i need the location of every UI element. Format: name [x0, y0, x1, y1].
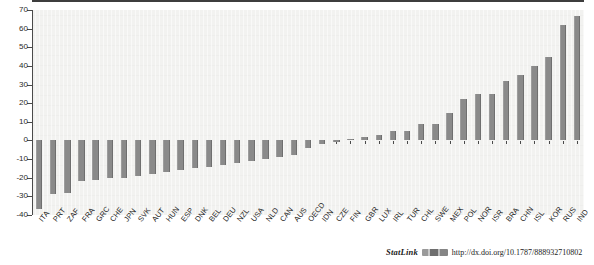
y-tick-label: 30 — [0, 81, 28, 89]
bar — [418, 124, 425, 141]
y-tick-label: -20 — [0, 174, 28, 182]
bar — [404, 131, 411, 140]
statlink-url[interactable]: http://dx.doi.org/10.1787/888932710802 — [452, 248, 582, 257]
bar — [206, 140, 213, 166]
bar — [121, 140, 128, 177]
bar — [163, 140, 170, 172]
bar — [107, 140, 114, 177]
bar — [276, 140, 283, 157]
bar — [234, 140, 241, 162]
bar — [248, 140, 255, 161]
x-axis-labels: ITAPRTZAFFRAGRCCHEJPNSVKAUTHUNESPDNKBELD… — [32, 216, 584, 250]
bar — [319, 140, 326, 144]
bar — [531, 66, 538, 141]
y-tick-label: 10 — [0, 118, 28, 126]
bar — [291, 140, 298, 155]
y-tick-label: 20 — [0, 99, 28, 107]
bar — [347, 139, 354, 141]
bar — [517, 75, 524, 140]
bar — [50, 140, 57, 194]
bar — [460, 99, 467, 140]
bar — [262, 140, 269, 159]
statlink-label: StatLink — [386, 247, 418, 257]
bar — [135, 140, 142, 175]
bar — [545, 57, 552, 141]
bar — [361, 137, 368, 141]
bar — [489, 94, 496, 141]
y-tick-label: -40 — [0, 211, 28, 219]
y-tick-label: -30 — [0, 192, 28, 200]
y-tick-label: 0 — [0, 136, 28, 144]
bar — [574, 16, 581, 141]
bar — [220, 140, 227, 164]
bar — [446, 113, 453, 141]
bar — [36, 140, 43, 209]
bar — [149, 140, 156, 174]
y-tick-label: 40 — [0, 62, 28, 70]
bar — [64, 140, 71, 192]
bar — [560, 25, 567, 141]
bar-chart: 706050403020100-10-20-30-40 ITAPRTZAFFRA… — [0, 0, 594, 265]
y-tick-label: 50 — [0, 43, 28, 51]
statlink-footer: StatLink http://dx.doi.org/10.1787/88893… — [386, 247, 582, 257]
bar — [192, 140, 199, 168]
bar-series — [32, 10, 584, 215]
bar — [390, 131, 397, 140]
bar — [376, 135, 383, 141]
bar — [432, 124, 439, 141]
bar — [503, 81, 510, 141]
bar — [333, 140, 340, 142]
bar — [92, 140, 99, 179]
zero-baseline — [32, 0, 584, 2]
y-tick-label: -10 — [0, 155, 28, 163]
bar — [78, 140, 85, 181]
statlink-barcode-logo-icon — [422, 249, 448, 256]
bar — [475, 94, 482, 141]
bar — [305, 140, 312, 147]
y-tick-label: 60 — [0, 25, 28, 33]
bar — [177, 140, 184, 170]
y-tick-label: 70 — [0, 6, 28, 14]
